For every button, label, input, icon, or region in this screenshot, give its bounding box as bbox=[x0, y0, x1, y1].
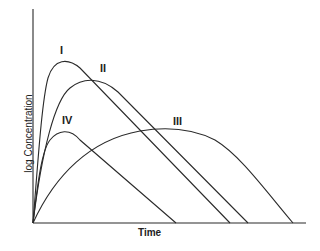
curves-plot bbox=[0, 0, 320, 251]
label-III: III bbox=[173, 115, 182, 127]
y-axis-label: log Concentration bbox=[23, 84, 34, 184]
curve-III bbox=[33, 129, 293, 223]
label-IV: IV bbox=[62, 114, 72, 126]
label-I: I bbox=[60, 44, 63, 56]
curve-I bbox=[33, 61, 230, 223]
x-axis-label: Time bbox=[138, 227, 161, 238]
curve-II bbox=[33, 80, 248, 223]
pharmacokinetic-diagram: I II IV III log Concentration Time bbox=[0, 0, 320, 251]
label-II: II bbox=[100, 62, 106, 74]
